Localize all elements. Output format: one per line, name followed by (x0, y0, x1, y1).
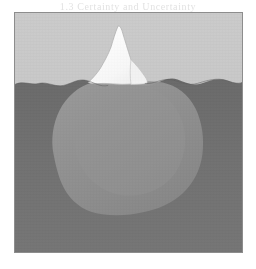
iceberg-submerged-shading (74, 84, 185, 195)
iceberg-figure-frame (14, 12, 243, 253)
iceberg-illustration (15, 13, 242, 252)
ghost-text-heading: 1.3 Certainty and Uncertainty (0, 1, 256, 12)
figure-page: 1.3 Certainty and Uncertainty 1.3.1 The … (0, 0, 256, 269)
